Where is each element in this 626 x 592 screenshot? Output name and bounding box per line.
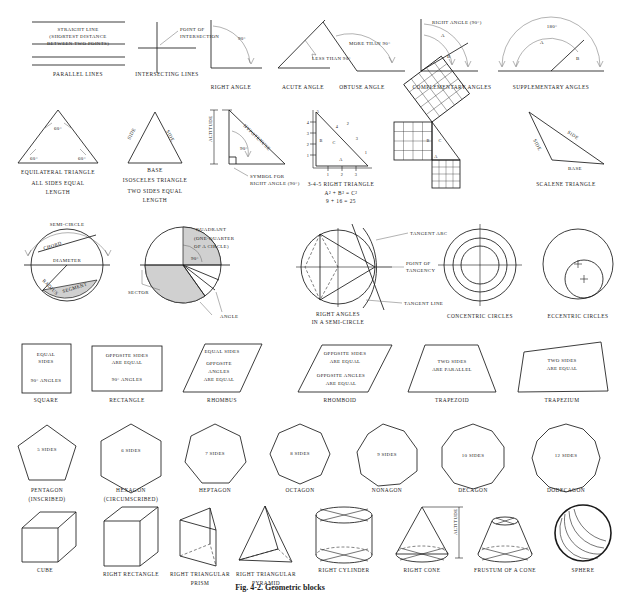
label-less-than-90: LESS THAN 90° [312, 56, 351, 61]
tick-2-hyp: 2 [347, 121, 349, 126]
label-equal: EQUAL [37, 352, 55, 357]
figure-cube: CUBE [22, 512, 76, 573]
tick-1-hyp: 1 [365, 150, 367, 155]
label-sq-a: A [434, 154, 438, 159]
label-intersection: INTERSECTION [180, 34, 219, 39]
label-octagon-sides: 8 SIDES [290, 451, 310, 456]
sub-isosceles-1: TWO SIDES EQUAL [128, 188, 183, 194]
figure-heptagon: 7 SIDES HEPTAGON [185, 424, 246, 493]
label-quadrant-90: 90° [191, 256, 199, 261]
label-sides: SIDES [38, 359, 53, 364]
label-sq-c: C [438, 138, 441, 143]
label-rt-90: 90° [240, 146, 248, 151]
figure-square: EQUAL SIDES 90° ANGLES SQUARE [22, 344, 71, 403]
caption-concentric-circles: CONCENTRIC CIRCLES [447, 313, 513, 319]
label-altitude: ALTITUDE [208, 115, 213, 142]
figure-eccentric-circles: ECCENTRIC CIRCLES [543, 229, 613, 319]
label-shortest-distance: (SHORTEST DISTANCE [49, 34, 106, 39]
label-rect-are-equal: ARE EQUAL [112, 360, 143, 365]
figure-right-angle: 90° RIGHT ANGLE [211, 20, 262, 90]
figure-rhombus: EQUAL SIDES OPPOSITE ANGLES ARE EQUAL RH… [183, 344, 262, 403]
figure-right-cylinder: RIGHT CYLINDER [316, 507, 372, 573]
figure-tangents: TANGENT ARC POINT OF TANGENCY TANGENT LI… [296, 224, 447, 325]
label-scalene-side-2: SIDE [532, 138, 542, 151]
plate-caption: Fig. 4-2. Geometric blocks [235, 583, 325, 592]
tick-5-y: 5 [317, 109, 319, 114]
figure-frustum-of-a-cone: FRUSTUM OF A CONE [474, 517, 536, 573]
caption-decagon: DECAGON [458, 487, 488, 493]
label-iso-base: BASE [147, 167, 163, 173]
label-rhomboid-are-equal-2: ARE EQUAL [326, 381, 357, 386]
caption-right-triangular-prism: RIGHT TRIANGULAR [170, 571, 230, 577]
label-rect-opposite-sides: OPPOSITE SIDES [106, 353, 149, 358]
figure-acute-angle: LESS THAN 90° ACUTE ANGLE [278, 20, 351, 90]
figure-dodecagon: 12 SIDES DODECAGON [532, 424, 600, 493]
label-right-angle-symbol: RIGHT ANGLE (90°) [250, 181, 300, 186]
caption-nonagon: NONAGON [372, 487, 402, 493]
figure-right-triangular-prism: RIGHT TRIANGULAR PRISM [170, 508, 230, 586]
caption-complementary-angles: COMPLEMENTARY ANGLES [413, 84, 492, 90]
plate-canvas: STRAIGHT LINE (SHORTEST DISTANCE BETWEEN… [0, 0, 626, 592]
label-trapezium-two-sides: TWO SIDES [547, 358, 576, 363]
caption-dodecagon: DODECAGON [547, 487, 585, 493]
geometry-reference-plate: STRAIGHT LINE (SHORTEST DISTANCE BETWEEN… [0, 0, 626, 592]
figure-parallel-lines: STRAIGHT LINE (SHORTEST DISTANCE BETWEEN… [32, 22, 125, 77]
caption-right-cylinder: RIGHT CYLINDER [318, 567, 369, 573]
sub-prism: PRISM [191, 580, 209, 586]
label-heptagon-sides: 7 SIDES [205, 451, 225, 456]
sub-isosceles-2: LENGTH [143, 197, 167, 203]
figure-trapezium: TWO SIDES ARE EQUAL TRAPEZIUM [518, 342, 608, 403]
caption-intersecting-lines: INTERSECTING LINES [135, 71, 198, 77]
tick-2-y: 2 [307, 142, 309, 147]
label-345-a: A [339, 157, 343, 162]
figure-right-triangular-pyramid: RIGHT TRIANGULAR PYRAMID [236, 506, 296, 586]
label-symbol-for: SYMBOL FOR [250, 174, 285, 179]
caption-frustum-of-a-cone: FRUSTUM OF A CONE [474, 567, 536, 573]
label-sq-b: B [426, 138, 429, 143]
label-tangent-line: TANGENT LINE [404, 301, 443, 306]
label-rhombus-opposite: OPPOSITE [206, 361, 232, 366]
label-sector: SECTOR [128, 290, 149, 295]
caption-square: SQUARE [34, 397, 59, 403]
figure-circle-parts: SEMI-CIRCLE CHORD DIAMETER RADIUS SEGMEN… [24, 222, 111, 301]
sub-hexagon-circumscribed: (CIRCUMSCRIBED) [104, 496, 158, 503]
label-hexagon-sides: 6 SIDES [121, 448, 141, 453]
label-rhomboid-opposite-sides: OPPOSITE SIDES [324, 351, 367, 356]
label-nonagon-sides: 9 SIDES [377, 452, 397, 457]
figure-right-rectangle: RIGHT RECTANGLE [103, 507, 159, 577]
label-cone-altitude: ALTITUDE [453, 508, 458, 535]
caption-right-angle: RIGHT ANGLE [211, 84, 252, 90]
label-straight-line: STRAIGHT LINE [57, 27, 98, 32]
label-angle: ANGLE [220, 314, 238, 319]
label-semi-circle: SEMI-CIRCLE [50, 222, 85, 227]
label-sup-angle-b: B [576, 56, 580, 61]
caption-equilateral-triangle: EQUILATERAL TRIANGLE [21, 169, 95, 175]
caption-octagon: OCTAGON [285, 487, 314, 493]
figure-trapezoid: TWO SIDES ARE PARALLEL TRAPEZOID [408, 345, 496, 403]
figure-intersecting-lines: POINT OF INTERSECTION INTERSECTING LINES [135, 22, 219, 77]
caption-obtuse-angle: OBTUSE ANGLE [339, 84, 385, 90]
caption-hexagon: HEXAGON [116, 487, 146, 493]
caption-isosceles-triangle: ISOSCELES TRIANGLE [123, 177, 188, 183]
figure-right-cone: ALTITUDE RIGHT CONE [396, 507, 463, 573]
caption-sphere: SPHERE [572, 567, 595, 573]
label-rhombus-equal-sides: EQUAL SIDES [204, 349, 239, 354]
label-rhombus-are-equal: ARE EQUAL [204, 377, 235, 382]
label-angle-b: B [447, 54, 451, 59]
caption-pentagon: PENTAGON [31, 487, 63, 493]
figure-supplementary-angles: 180° A B SUPPLEMENTARY ANGLES [498, 17, 604, 90]
label-point-of-tangency-2: TANGENCY [406, 268, 435, 273]
tick-3-x: 3 [355, 172, 357, 177]
label-diameter: DIAMETER [53, 258, 81, 263]
caption-parallel-lines: PARALLEL LINES [53, 71, 103, 77]
sub-equilateral-1: ALL SIDES EQUAL [32, 180, 85, 186]
figure-complementary-angles: RIGHT ANGLE (90°) A B COMPLEMENTARY ANGL… [413, 19, 492, 90]
label-trapezium-are-equal: ARE EQUAL [547, 366, 578, 371]
label-iso-side-right: SIDE [165, 129, 175, 142]
caption-trapezium: TRAPEZIUM [545, 397, 580, 403]
label-chord: CHORD [43, 241, 63, 251]
label-eq-60-top: 60° [54, 126, 62, 131]
caption-right-rectangle: RIGHT RECTANGLE [103, 571, 159, 577]
label-between-two-points: BETWEEN TWO POINTS) [47, 41, 109, 46]
tick-3-y: 3 [307, 131, 309, 136]
